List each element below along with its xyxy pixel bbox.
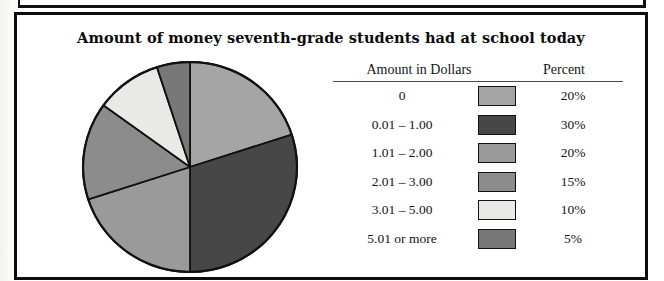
legend-row: 2.01 – 3.0015% — [333, 168, 623, 197]
question-frame: Amount of money seventh-grade students h… — [14, 12, 648, 280]
legend-header-percent: Percent — [505, 62, 623, 78]
legend-swatch-cell — [471, 172, 523, 192]
legend-row-label: 3.01 – 5.00 — [333, 202, 471, 218]
legend-row-percent: 20% — [523, 88, 623, 104]
legend-swatch-cell — [471, 229, 523, 249]
legend-color-swatch — [478, 143, 516, 163]
legend-table: Amount in Dollars Percent 020%0.01 – 1.0… — [333, 62, 623, 253]
legend-row-list: 020%0.01 – 1.0030%1.01 – 2.0020%2.01 – 3… — [333, 82, 623, 253]
legend-row-label: 1.01 – 2.00 — [333, 145, 471, 161]
legend-swatch-cell — [471, 143, 523, 163]
cropped-frame-above — [18, 0, 646, 8]
legend-row: 0.01 – 1.0030% — [333, 111, 623, 140]
legend-row: 3.01 – 5.0010% — [333, 196, 623, 225]
legend-color-swatch — [478, 86, 516, 106]
legend-row: 1.01 – 2.0020% — [333, 139, 623, 168]
legend-row-label: 0 — [333, 88, 471, 104]
worksheet-page: Amount of money seventh-grade students h… — [0, 0, 664, 281]
legend-color-swatch — [478, 172, 516, 192]
legend-row-label: 0.01 – 1.00 — [333, 117, 471, 133]
legend-header-amount: Amount in Dollars — [333, 62, 505, 78]
pie-chart — [80, 59, 300, 275]
legend-color-swatch — [478, 229, 516, 249]
legend-row: 5.01 or more5% — [333, 225, 623, 254]
legend-header-row: Amount in Dollars Percent — [333, 62, 623, 82]
legend-row-label: 5.01 or more — [333, 231, 471, 247]
legend-color-swatch — [478, 200, 516, 220]
legend-row-label: 2.01 – 3.00 — [333, 174, 471, 190]
legend-row: 020% — [333, 82, 623, 111]
legend-row-percent: 20% — [523, 145, 623, 161]
legend-row-percent: 5% — [523, 231, 623, 247]
chart-title: Amount of money seventh-grade students h… — [17, 29, 645, 46]
legend-color-swatch — [478, 115, 516, 135]
legend-row-percent: 30% — [523, 117, 623, 133]
legend-swatch-cell — [471, 115, 523, 135]
pie-chart-svg — [80, 59, 300, 275]
legend-swatch-cell — [471, 86, 523, 106]
legend-row-percent: 15% — [523, 174, 623, 190]
legend-row-percent: 10% — [523, 202, 623, 218]
legend-swatch-cell — [471, 200, 523, 220]
